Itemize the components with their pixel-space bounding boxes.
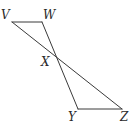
label-w: W (43, 8, 57, 22)
segments (12, 22, 122, 109)
labels: V W X Y Z (1, 8, 129, 124)
segment-vz (12, 22, 122, 109)
geometry-diagram: V W X Y Z (0, 0, 140, 126)
label-y: Y (68, 110, 77, 124)
label-v: V (1, 8, 11, 22)
label-z: Z (119, 110, 129, 124)
label-x: X (40, 55, 50, 69)
